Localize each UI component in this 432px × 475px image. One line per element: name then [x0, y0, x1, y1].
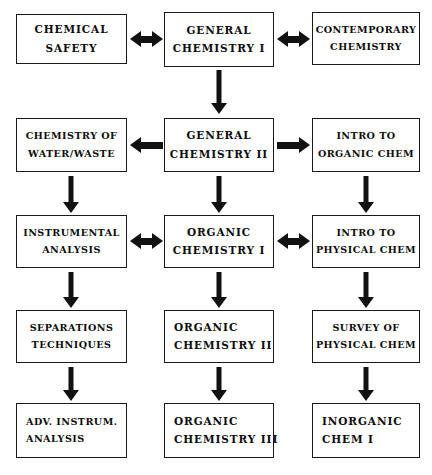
connector-general-chemistry-i-general-chemistry-ii	[211, 70, 227, 114]
node-organic-chemistry-ii[interactable]: ORGANIC CHEMISTRY II	[164, 310, 274, 363]
arrow-shaft	[288, 238, 299, 245]
arrow-shaft	[141, 36, 152, 43]
node-label-line1: ORGANIC	[174, 322, 238, 333]
arrow-shaft	[217, 272, 222, 297]
arrow-right-head-icon	[299, 233, 310, 249]
arrow-right-head-icon	[299, 31, 310, 47]
arrow-shaft	[141, 142, 163, 149]
arrow-left-head-icon	[130, 137, 141, 153]
arrow-down-head-icon	[211, 103, 227, 114]
node-label-line2: PHYSICAL CHEM	[316, 340, 416, 350]
node-label-line1: GENERAL	[186, 25, 251, 36]
node-separations-techniques[interactable]: SEPARATIONS TECHNIQUES	[16, 310, 127, 363]
connector-organic-chemistry-i-intro-to-physical-chem	[277, 233, 310, 249]
node-chemical-safety[interactable]: CHEMICAL SAFETY	[16, 14, 127, 64]
connector-chemistry-of-water-waste-instrumental-analysis	[63, 176, 79, 213]
connector-general-chemistry-ii-chemistry-of-water-waste	[130, 137, 163, 153]
node-label-line2: CHEM I	[322, 434, 374, 445]
node-label-line2: PHYSICAL CHEM	[316, 245, 416, 255]
node-chemistry-of-water-waste[interactable]: CHEMISTRY OF WATER/WASTE	[16, 118, 127, 172]
connector-general-chemistry-i-contemporary-chemistry	[277, 31, 310, 47]
arrow-shaft	[288, 36, 299, 43]
course-sequence-flowchart: CHEMICAL SAFETY GENERAL CHEMISTRY I CONT…	[0, 0, 432, 475]
node-label-line2: SAFETY	[46, 43, 98, 54]
node-label-line2: CHEMISTRY III	[174, 434, 278, 445]
node-general-chemistry-ii[interactable]: GENERAL CHEMISTRY II	[164, 118, 274, 172]
node-label-line1: SURVEY OF	[332, 323, 399, 333]
node-label-line2: ANALYSIS	[42, 245, 101, 255]
connector-intro-to-organic-chem-intro-to-physical-chem	[358, 176, 374, 213]
arrow-shaft	[364, 367, 369, 390]
node-label-line1: GENERAL	[186, 130, 251, 141]
arrow-left-head-icon	[130, 31, 141, 47]
connector-general-chemistry-ii-intro-to-organic-chem	[277, 137, 310, 153]
arrow-shaft	[69, 367, 74, 390]
node-label-line2: ORGANIC CHEM	[318, 149, 414, 159]
connector-separations-techniques-adv-instrum-analysis	[63, 367, 79, 401]
connector-intro-to-physical-chem-survey-of-physical-chem	[358, 272, 374, 308]
arrow-shaft	[277, 142, 299, 149]
arrow-down-head-icon	[358, 390, 374, 401]
node-organic-chemistry-i[interactable]: ORGANIC CHEMISTRY I	[164, 215, 274, 268]
arrow-left-head-icon	[130, 233, 141, 249]
node-adv-instrum-analysis[interactable]: ADV. INSTRUM. ANALYSIS	[16, 403, 127, 458]
arrow-down-head-icon	[63, 390, 79, 401]
node-label-line1: ORGANIC	[174, 416, 238, 427]
arrow-down-head-icon	[63, 297, 79, 308]
node-label-line2: WATER/WASTE	[28, 149, 115, 159]
node-label-line2: CHEMISTRY I	[173, 43, 266, 54]
arrow-shaft	[69, 176, 74, 202]
node-label-line1: SEPARATIONS	[30, 323, 114, 333]
node-intro-to-organic-chem[interactable]: INTRO TO ORGANIC CHEM	[312, 118, 420, 172]
node-organic-chemistry-iii[interactable]: ORGANIC CHEMISTRY III	[164, 403, 274, 458]
connector-chemical-safety-general-chemistry-i	[130, 31, 163, 47]
arrow-down-head-icon	[211, 202, 227, 213]
node-inorganic-chem-i[interactable]: INORGANIC CHEM I	[312, 403, 420, 458]
arrow-shaft	[217, 70, 222, 103]
node-label-line1: ADV. INSTRUM.	[26, 417, 118, 427]
connector-instrumental-analysis-organic-chemistry-i	[130, 233, 163, 249]
arrow-shaft	[364, 272, 369, 297]
connector-general-chemistry-ii-organic-chemistry-i	[211, 176, 227, 213]
node-label-line1: CHEMICAL	[35, 24, 109, 35]
arrow-shaft	[69, 272, 74, 297]
node-label-line1: INORGANIC	[322, 416, 402, 427]
node-label-line1: CHEMISTRY OF	[26, 131, 118, 141]
arrow-down-head-icon	[211, 390, 227, 401]
node-instrumental-analysis[interactable]: INSTRUMENTAL ANALYSIS	[16, 215, 127, 268]
node-label-line1: INSTRUMENTAL	[23, 228, 120, 238]
connector-instrumental-analysis-separations-techniques	[63, 272, 79, 308]
connector-organic-chemistry-i-organic-chemistry-ii	[211, 272, 227, 308]
node-label-line2: CHEMISTRY II	[174, 340, 272, 351]
node-label-line2: CHEMISTRY I	[173, 245, 266, 256]
node-label-line2: CHEMISTRY	[330, 42, 402, 52]
arrow-shaft	[217, 367, 222, 390]
arrow-right-head-icon	[152, 31, 163, 47]
node-label-line1: INTRO TO	[336, 131, 395, 141]
arrow-right-head-icon	[299, 137, 310, 153]
node-survey-of-physical-chem[interactable]: SURVEY OF PHYSICAL CHEM	[312, 310, 420, 363]
node-label-line1: INTRO TO	[336, 228, 395, 238]
connector-organic-chemistry-ii-organic-chemistry-iii	[211, 367, 227, 401]
arrow-down-head-icon	[358, 297, 374, 308]
node-intro-to-physical-chem[interactable]: INTRO TO PHYSICAL CHEM	[312, 215, 420, 268]
arrow-shaft	[217, 176, 222, 202]
connector-survey-of-physical-chem-inorganic-chem-i	[358, 367, 374, 401]
node-label-line1: CONTEMPORARY	[316, 25, 417, 35]
node-label-line2: TECHNIQUES	[32, 340, 112, 350]
arrow-shaft	[364, 176, 369, 202]
node-label-line2: CHEMISTRY II	[170, 149, 268, 160]
node-label-line2: ANALYSIS	[26, 434, 85, 444]
node-contemporary-chemistry[interactable]: CONTEMPORARY CHEMISTRY	[312, 12, 420, 65]
arrow-right-head-icon	[152, 233, 163, 249]
arrow-left-head-icon	[277, 31, 288, 47]
arrow-shaft	[141, 238, 152, 245]
arrow-down-head-icon	[63, 202, 79, 213]
arrow-left-head-icon	[277, 233, 288, 249]
arrow-down-head-icon	[358, 202, 374, 213]
node-label-line1: ORGANIC	[187, 227, 251, 238]
node-general-chemistry-i[interactable]: GENERAL CHEMISTRY I	[164, 12, 274, 67]
arrow-down-head-icon	[211, 297, 227, 308]
